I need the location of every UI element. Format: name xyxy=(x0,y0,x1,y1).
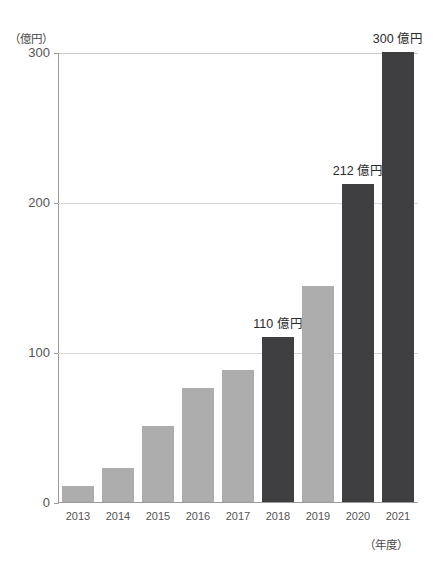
bar-2014 xyxy=(102,468,134,503)
bar-2015 xyxy=(142,426,174,503)
x-tick-label-2021: 2021 xyxy=(373,511,423,522)
y-tick-label-0: 0 xyxy=(4,496,50,509)
bar-2017 xyxy=(222,370,254,502)
plot-top-border xyxy=(58,53,418,54)
y-tick-label-200: 200 xyxy=(4,196,50,209)
bar-2013 xyxy=(62,486,94,503)
bar-value-label-2021: 300 億円 xyxy=(348,33,433,46)
bar-2021 xyxy=(382,52,414,502)
x-axis-line xyxy=(58,502,418,503)
bar-value-label-2020: 212 億円 xyxy=(308,165,408,178)
x-axis-unit-label: （年度） xyxy=(364,536,408,552)
y-tick-label-100: 100 xyxy=(4,346,50,359)
bar-chart: （億円） （年度） 0100200300 2013201420152016201… xyxy=(0,0,433,569)
y-axis-tick-labels: 0100200300 xyxy=(0,53,50,503)
plot-area xyxy=(58,53,418,503)
bar-2020 xyxy=(342,184,374,502)
bar-value-label-2018: 110 億円 xyxy=(228,318,328,331)
y-axis-unit-label: （億円） xyxy=(9,30,53,46)
y-tick-label-300: 300 xyxy=(4,46,50,59)
bar-2018 xyxy=(262,337,294,502)
y-axis-line xyxy=(58,53,59,503)
bar-2016 xyxy=(182,388,214,502)
